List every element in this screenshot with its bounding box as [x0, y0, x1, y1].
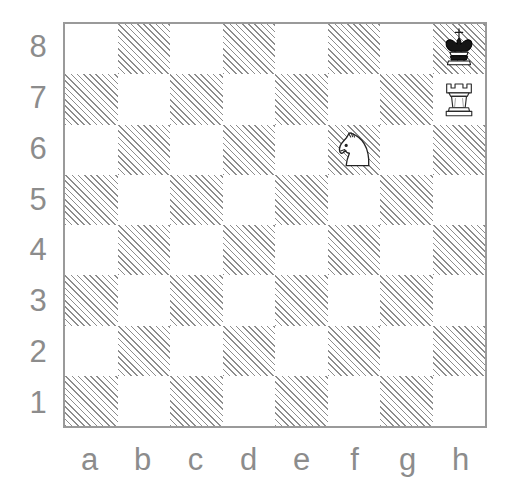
board-square-g2[interactable] — [380, 326, 433, 376]
board-square-d5[interactable] — [223, 175, 276, 225]
rank-label-7: 7 — [18, 82, 58, 113]
board-square-f8[interactable] — [328, 24, 381, 74]
board-square-e1[interactable] — [275, 376, 328, 426]
rank-label-6: 6 — [18, 133, 58, 164]
file-label-g: g — [381, 444, 434, 475]
board-square-a2[interactable] — [65, 326, 118, 376]
board-square-e6[interactable] — [275, 125, 328, 175]
board-grid — [65, 24, 485, 426]
file-label-c: c — [169, 444, 222, 475]
black-king-icon[interactable] — [433, 24, 486, 74]
board-square-a4[interactable] — [65, 225, 118, 275]
board-square-h4[interactable] — [433, 225, 486, 275]
rank-label-2: 2 — [18, 336, 58, 367]
board-square-g8[interactable] — [380, 24, 433, 74]
board-square-b1[interactable] — [118, 376, 171, 426]
board-square-f6[interactable] — [328, 125, 381, 175]
board-square-h7[interactable] — [433, 74, 486, 124]
board-square-f2[interactable] — [328, 326, 381, 376]
board-square-b8[interactable] — [118, 24, 171, 74]
white-rook-icon[interactable] — [433, 74, 486, 124]
board-square-b2[interactable] — [118, 326, 171, 376]
board-square-b3[interactable] — [118, 275, 171, 325]
board-square-a8[interactable] — [65, 24, 118, 74]
board-square-g1[interactable] — [380, 376, 433, 426]
board-square-b7[interactable] — [118, 74, 171, 124]
board-square-d6[interactable] — [223, 125, 276, 175]
rank-label-1: 1 — [18, 387, 58, 418]
file-label-b: b — [116, 444, 169, 475]
rank-label-8: 8 — [18, 31, 58, 62]
rank-label-4: 4 — [18, 234, 58, 265]
board-square-f4[interactable] — [328, 225, 381, 275]
chess-diagram: 8 7 6 5 4 3 2 1 a b c d e f g h — [0, 0, 510, 495]
board-square-g5[interactable] — [380, 175, 433, 225]
board-square-h3[interactable] — [433, 275, 486, 325]
board-square-e4[interactable] — [275, 225, 328, 275]
board-square-d2[interactable] — [223, 326, 276, 376]
board-square-c2[interactable] — [170, 326, 223, 376]
file-label-h: h — [434, 444, 487, 475]
board-square-a6[interactable] — [65, 125, 118, 175]
board-square-h1[interactable] — [433, 376, 486, 426]
board-square-h8[interactable] — [433, 24, 486, 74]
board-square-e3[interactable] — [275, 275, 328, 325]
rank-label-5: 5 — [18, 184, 58, 215]
board-square-c4[interactable] — [170, 225, 223, 275]
board-square-d3[interactable] — [223, 275, 276, 325]
board-square-c5[interactable] — [170, 175, 223, 225]
board-square-h5[interactable] — [433, 175, 486, 225]
board-square-c7[interactable] — [170, 74, 223, 124]
file-label-a: a — [63, 444, 116, 475]
board-square-d4[interactable] — [223, 225, 276, 275]
board-square-a3[interactable] — [65, 275, 118, 325]
board-square-c1[interactable] — [170, 376, 223, 426]
file-label-e: e — [275, 444, 328, 475]
board-square-h6[interactable] — [433, 125, 486, 175]
board-square-e5[interactable] — [275, 175, 328, 225]
board-square-a5[interactable] — [65, 175, 118, 225]
board-square-d7[interactable] — [223, 74, 276, 124]
board-square-g7[interactable] — [380, 74, 433, 124]
board-square-b4[interactable] — [118, 225, 171, 275]
board-square-g3[interactable] — [380, 275, 433, 325]
white-knight-icon[interactable] — [328, 125, 381, 175]
chess-board — [63, 22, 487, 428]
board-square-g6[interactable] — [380, 125, 433, 175]
board-square-b5[interactable] — [118, 175, 171, 225]
board-square-d1[interactable] — [223, 376, 276, 426]
board-square-c6[interactable] — [170, 125, 223, 175]
file-label-d: d — [222, 444, 275, 475]
file-label-f: f — [328, 444, 381, 475]
board-square-d8[interactable] — [223, 24, 276, 74]
rank-label-3: 3 — [18, 285, 58, 316]
board-square-f1[interactable] — [328, 376, 381, 426]
board-square-h2[interactable] — [433, 326, 486, 376]
board-square-a1[interactable] — [65, 376, 118, 426]
board-square-e2[interactable] — [275, 326, 328, 376]
board-square-c3[interactable] — [170, 275, 223, 325]
board-square-a7[interactable] — [65, 74, 118, 124]
board-square-f7[interactable] — [328, 74, 381, 124]
board-square-f5[interactable] — [328, 175, 381, 225]
board-square-e7[interactable] — [275, 74, 328, 124]
board-square-b6[interactable] — [118, 125, 171, 175]
board-square-g4[interactable] — [380, 225, 433, 275]
board-square-f3[interactable] — [328, 275, 381, 325]
board-square-c8[interactable] — [170, 24, 223, 74]
board-square-e8[interactable] — [275, 24, 328, 74]
